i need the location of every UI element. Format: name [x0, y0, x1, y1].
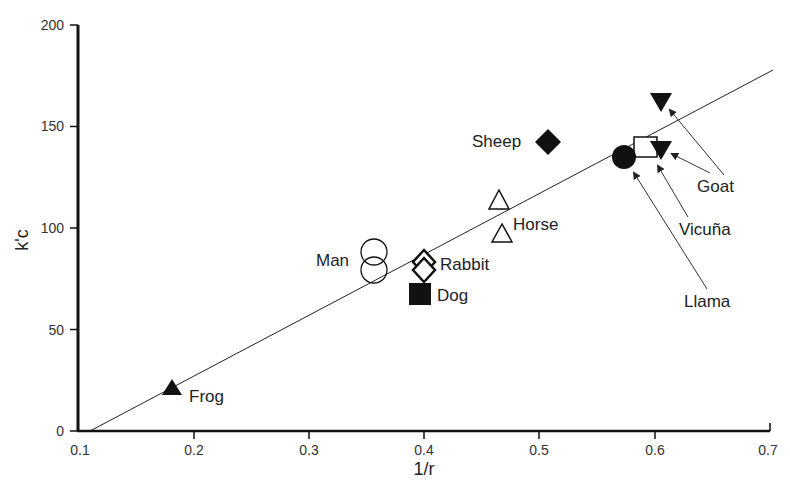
- y-tick-label: 100: [41, 220, 65, 236]
- x-ticks: 0.1 0.2 0.3 0.4 0.5 0.6 0.7: [70, 431, 778, 458]
- scatter-chart: 200 150 100 50 0 0.1 0.2 0.3 0.4 0.5 0.6…: [0, 0, 790, 491]
- horse-marker-open-triangle-icon: [489, 190, 509, 209]
- man-label: Man: [316, 251, 349, 270]
- dog-marker-filled-square-icon: [409, 283, 431, 305]
- horse-marker-open-triangle-icon: [492, 224, 512, 242]
- x-tick-label: 0.1: [70, 442, 90, 458]
- y-tick-label: 50: [48, 322, 64, 338]
- llama-marker-filled-circle-icon: [612, 145, 636, 169]
- x-axis-label: 1/r: [413, 459, 434, 479]
- sheep-marker-filled-diamond-icon: [535, 129, 561, 155]
- y-tick-label: 150: [41, 118, 65, 134]
- x-tick-label: 0.6: [645, 442, 665, 458]
- horse-label: Horse: [513, 215, 558, 234]
- x-tick-label: 0.3: [299, 442, 319, 458]
- x-tick-label: 0.4: [414, 442, 434, 458]
- x-tick-label: 0.2: [184, 442, 204, 458]
- rabbit-label: Rabbit: [440, 255, 489, 274]
- sheep-label: Sheep: [472, 132, 521, 151]
- frog-label: Frog: [189, 387, 224, 406]
- goat-marker-filled-triangle-down-icon: [650, 93, 672, 112]
- goat-arrow: [670, 110, 724, 175]
- llama-label: Llama: [684, 292, 731, 311]
- vicuna-arrow: [658, 166, 688, 217]
- vicuna-label: Vicuña: [679, 220, 731, 239]
- y-tick-label: 200: [41, 17, 65, 33]
- goat-label: Goat: [697, 177, 734, 196]
- y-tick-label: 0: [56, 423, 64, 439]
- dog-label: Dog: [437, 286, 468, 305]
- x-tick-label: 0.7: [758, 442, 778, 458]
- y-ticks: 200 150 100 50 0: [41, 17, 78, 439]
- regression-line: [90, 70, 773, 431]
- y-axis-label: k'c: [12, 229, 32, 250]
- goat-arrow: [672, 154, 710, 173]
- man-marker-open-circle-icon: [361, 257, 387, 283]
- frog-marker-filled-triangle-icon: [162, 379, 182, 395]
- x-tick-label: 0.5: [529, 442, 549, 458]
